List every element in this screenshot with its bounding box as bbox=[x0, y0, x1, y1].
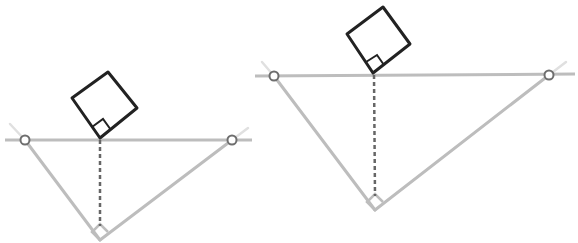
left-endpoint-circle bbox=[21, 136, 30, 145]
altitude-dashed-line bbox=[374, 75, 375, 196]
figure-left bbox=[5, 72, 252, 240]
right-leg bbox=[100, 140, 232, 240]
right-leg bbox=[375, 75, 549, 210]
hypotenuse-line bbox=[255, 74, 575, 76]
right-endpoint-circle bbox=[228, 136, 237, 145]
square-right-angle-marker bbox=[366, 55, 384, 65]
tilted-square bbox=[72, 72, 137, 138]
figure-right bbox=[255, 7, 575, 210]
left-endpoint-circle bbox=[270, 72, 279, 81]
left-leg bbox=[25, 140, 100, 240]
diagram-canvas bbox=[0, 0, 578, 243]
right-endpoint-circle bbox=[545, 71, 554, 80]
tilted-square bbox=[347, 7, 410, 73]
left-leg bbox=[274, 76, 375, 210]
